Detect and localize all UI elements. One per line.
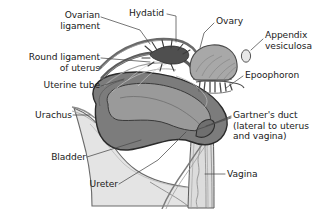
leader-appendix-vesiculosa (251, 39, 263, 50)
label-uterine-tube: Uterine tube (14, 80, 100, 91)
label-gartners-duct: Gartner's duct (lateral to uterus and va… (233, 110, 321, 142)
leader-ovarian-ligament (101, 17, 150, 44)
label-ureter: Ureter (70, 179, 118, 190)
label-epoophoron: Epoophoron (245, 70, 315, 81)
label-ovary: Ovary (216, 16, 256, 27)
label-bladder: Bladder (30, 152, 86, 163)
label-ovarian-ligament: Ovarian ligament (14, 10, 100, 31)
anatomy-figure: Ovarian ligament Hydatid Ovary Appendix … (0, 0, 322, 209)
fimbriae (142, 40, 190, 71)
label-round-ligament-of-uterus: Round ligament of uterus (4, 52, 100, 73)
ovary-shape (190, 45, 237, 80)
leader-ovary (200, 23, 214, 48)
label-vagina: Vagina (227, 169, 273, 180)
appendix-vesiculosa (241, 50, 250, 62)
label-hydatid: Hydatid (129, 8, 179, 19)
label-appendix-vesiculosa: Appendix vesiculosa (265, 30, 322, 51)
label-urachus: Urachus (14, 110, 72, 121)
